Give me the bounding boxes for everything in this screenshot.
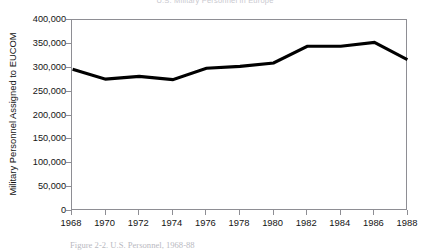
y-axis-tick-label: 100,000 (16, 157, 66, 167)
x-axis-tick-mark (71, 210, 72, 215)
y-axis-tick-mark (66, 115, 71, 116)
y-axis-tick-label: 50,000 (16, 181, 66, 191)
y-axis-tick-label: 350,000 (16, 38, 66, 48)
y-axis-tick-mark (66, 67, 71, 68)
x-axis-tick-mark (239, 210, 240, 215)
x-axis-tick-mark (340, 210, 341, 215)
y-axis-tick-label: 0 (16, 205, 66, 215)
y-axis-tick-mark (66, 91, 71, 92)
x-axis-tick-mark (172, 210, 173, 215)
y-axis-tick-mark (66, 186, 71, 187)
x-axis-tick-mark (306, 210, 307, 215)
data-series-line (73, 42, 408, 79)
x-axis-tick-label: 1988 (387, 216, 427, 229)
x-axis-tick-mark (205, 210, 206, 215)
figure-caption: Figure 2-2. U.S. Personnel, 1968-88 (70, 240, 400, 251)
plot-area (71, 19, 407, 210)
y-axis-tick-label: 400,000 (16, 14, 66, 24)
y-axis-tick-label: 250,000 (16, 86, 66, 96)
y-axis-tick-label: 300,000 (16, 62, 66, 72)
x-axis-tick-mark (407, 210, 408, 215)
y-axis-tick-mark (66, 138, 71, 139)
x-axis-tick-mark (373, 210, 374, 215)
y-axis-tick-mark (66, 43, 71, 44)
x-axis-tick-mark (105, 210, 106, 215)
y-axis-tick-label-group: 050,000100,000150,000200,000250,000300,0… (16, 0, 66, 247)
data-line-chart (72, 20, 408, 211)
y-axis-tick-label: 150,000 (16, 133, 66, 143)
y-axis-tick-mark (66, 19, 71, 20)
x-axis-tick-label-group: 1968197019721974197619781980198219841986… (0, 216, 430, 230)
x-axis-tick-mark (273, 210, 274, 215)
y-axis-tick-mark (66, 162, 71, 163)
x-axis-tick-mark (138, 210, 139, 215)
y-axis-tick-label: 200,000 (16, 110, 66, 120)
